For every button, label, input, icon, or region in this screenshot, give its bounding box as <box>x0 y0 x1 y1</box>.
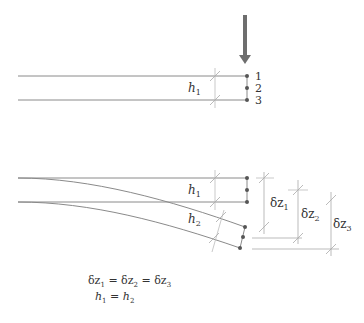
point-1 <box>245 74 249 78</box>
equations: δz1 = δz2 = δz3 h1 = h2 <box>88 274 171 305</box>
point-3 <box>245 98 249 102</box>
label-point-3: 3 <box>255 94 262 107</box>
equation-deflections: δz1 = δz2 = δz3 <box>88 274 171 289</box>
bottom-panel: h1 h2 δz1 δz2 δz3 <box>18 170 352 256</box>
label-dz2: δz2 <box>301 207 320 223</box>
label-h1: h1 <box>188 183 201 199</box>
label-dz3: δz3 <box>333 217 352 233</box>
load-arrow-icon <box>239 15 251 64</box>
deformed-bottom-curve <box>18 202 240 248</box>
equation-thickness: h1 = h2 <box>95 290 134 305</box>
top-panel: 1 2 3 h1 <box>18 15 262 108</box>
point-2 <box>245 86 249 90</box>
beam-bending-diagram: 1 2 3 h1 h1 h2 δz1 <box>0 0 364 323</box>
label-h1-top: h1 <box>188 81 201 97</box>
label-dz1: δz1 <box>270 196 289 212</box>
label-h2: h2 <box>188 212 201 228</box>
